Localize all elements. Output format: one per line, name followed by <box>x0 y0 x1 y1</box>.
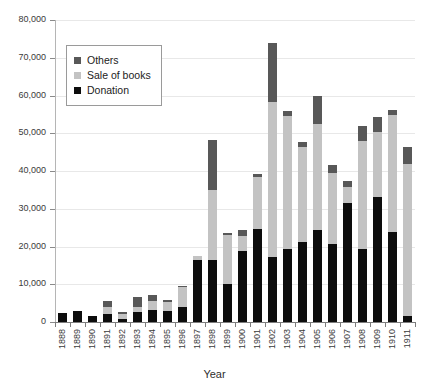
x-axis-tick <box>235 323 236 327</box>
legend-item-others[interactable]: Others <box>74 54 151 67</box>
x-axis-tick <box>415 323 416 327</box>
bar-segment-others <box>298 142 307 147</box>
y-axis-tick <box>50 96 55 97</box>
bar-group[interactable] <box>223 233 232 322</box>
bar-segment-sale-of-books <box>403 164 412 316</box>
legend-item-donation[interactable]: Donation <box>74 84 151 97</box>
bar-group[interactable] <box>343 181 352 322</box>
bar-segment-others <box>328 165 337 172</box>
x-axis-tick <box>400 323 401 327</box>
bar-segment-sale-of-books <box>148 301 157 310</box>
bar-group[interactable] <box>358 126 367 322</box>
bar-group[interactable] <box>193 256 202 322</box>
x-axis-tick-label: 1896 <box>178 329 187 349</box>
bar-segment-others <box>373 117 382 132</box>
x-axis-tick <box>265 323 266 327</box>
bar-segment-donation <box>328 244 337 322</box>
y-axis-tick <box>50 133 55 134</box>
x-axis-tick <box>160 323 161 327</box>
gridline <box>55 20 415 21</box>
bar-group[interactable] <box>388 110 397 322</box>
bar-group[interactable] <box>73 311 82 322</box>
y-axis-tick-label: 40,000 <box>18 166 46 175</box>
x-axis-tick-label: 1893 <box>133 329 142 349</box>
bar-segment-others <box>208 140 217 191</box>
x-axis-tick-label: 1894 <box>148 329 157 349</box>
x-axis-tick <box>55 323 56 327</box>
x-axis-tick <box>130 323 131 327</box>
x-axis-tick-label: 1897 <box>193 329 202 349</box>
x-axis-tick-label: 1911 <box>403 329 412 348</box>
bar-segment-donation <box>223 284 232 322</box>
bar-group[interactable] <box>58 313 67 322</box>
bar-segment-others <box>268 43 277 102</box>
x-axis-tick <box>355 323 356 327</box>
y-axis-tick <box>50 209 55 210</box>
bar-segment-donation <box>208 260 217 322</box>
bar-group[interactable] <box>253 174 262 322</box>
bar-segment-others <box>223 233 232 235</box>
bar-segment-sale-of-books <box>283 116 292 249</box>
y-axis-line <box>55 20 56 323</box>
bar-segment-others <box>388 110 397 115</box>
bar-group[interactable] <box>208 140 217 322</box>
x-axis-tick <box>190 323 191 327</box>
bar-segment-donation <box>163 311 172 322</box>
x-axis-tick-label: 1892 <box>118 329 127 349</box>
x-axis-tick-label: 1910 <box>388 329 397 349</box>
y-axis-tick-label: 70,000 <box>18 53 46 62</box>
x-axis-tick-label: 1904 <box>298 329 307 349</box>
bar-segment-donation <box>343 203 352 322</box>
x-axis-tick <box>70 323 71 327</box>
bar-group[interactable] <box>238 230 247 322</box>
y-axis-tick <box>50 58 55 59</box>
bar-group[interactable] <box>313 96 322 323</box>
bar-segment-donation <box>313 230 322 322</box>
y-axis-tick-label: 20,000 <box>18 242 46 251</box>
bar-segment-others <box>283 111 292 116</box>
bar-segment-others <box>163 300 172 303</box>
x-axis-tick-label: 1888 <box>58 329 67 349</box>
bar-segment-sale-of-books <box>328 173 337 245</box>
bar-group[interactable] <box>178 286 187 322</box>
x-axis-tick <box>325 323 326 327</box>
bar-segment-donation <box>358 249 367 322</box>
bar-segment-sale-of-books <box>103 307 112 313</box>
bar-group[interactable] <box>328 165 337 322</box>
bar-segment-sale-of-books <box>313 124 322 230</box>
bar-group[interactable] <box>283 111 292 322</box>
bar-segment-donation <box>103 314 112 322</box>
bar-group[interactable] <box>403 147 412 322</box>
bar-group[interactable] <box>118 312 127 322</box>
y-axis-tick-label: 30,000 <box>18 204 46 213</box>
bar-group[interactable] <box>373 117 382 322</box>
bar-group[interactable] <box>163 300 172 322</box>
bar-segment-donation <box>283 249 292 322</box>
x-axis-tick <box>205 323 206 327</box>
x-axis-tick <box>115 323 116 327</box>
bar-group[interactable] <box>103 301 112 322</box>
x-axis-tick-label: 1906 <box>328 329 337 349</box>
x-axis-tick-label: 1889 <box>73 329 82 349</box>
bar-group[interactable] <box>298 142 307 322</box>
bar-segment-sale-of-books <box>208 190 217 259</box>
x-axis-title: Year <box>0 368 429 380</box>
bar-segment-sale-of-books <box>133 307 142 312</box>
bar-segment-others <box>343 181 352 187</box>
x-axis-tick <box>220 323 221 327</box>
bar-segment-others <box>253 174 262 177</box>
x-axis-tick-label: 1903 <box>283 329 292 349</box>
legend-item-label: Others <box>87 54 119 67</box>
bar-group[interactable] <box>268 43 277 322</box>
x-axis-tick-label: 1905 <box>313 329 322 349</box>
x-axis-tick <box>310 323 311 327</box>
x-axis-tick-label: 1900 <box>238 329 247 349</box>
bar-segment-sale-of-books <box>253 177 262 228</box>
x-axis-tick-label: 1890 <box>88 329 97 349</box>
legend-item-sale-of-books[interactable]: Sale of books <box>74 69 151 82</box>
bar-group[interactable] <box>133 297 142 322</box>
bar-segment-sale-of-books <box>388 115 397 232</box>
bar-group[interactable] <box>148 295 157 322</box>
bar-segment-donation <box>193 260 202 322</box>
y-axis-tick <box>50 247 55 248</box>
